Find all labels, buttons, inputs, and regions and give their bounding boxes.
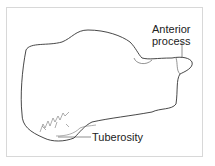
anterior-label-line2: process [152, 35, 191, 47]
tuberosity-label: Tuberosity [92, 131, 143, 143]
anterior-label-line1: Anterior [152, 23, 191, 35]
anterior-process-label: Anterior process [152, 23, 191, 47]
